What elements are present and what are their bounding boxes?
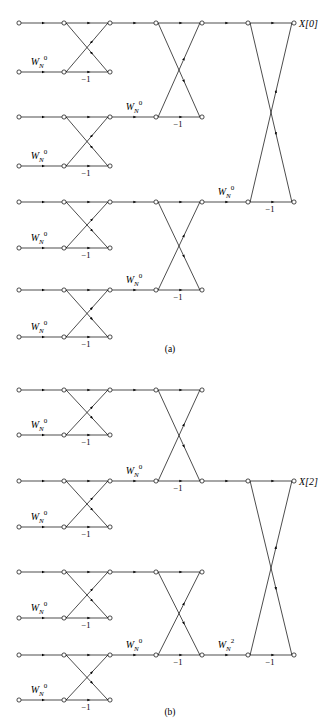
stage2-node	[108, 653, 112, 657]
stage2-node	[108, 164, 112, 168]
stage1-node	[62, 433, 66, 437]
input-node	[17, 525, 21, 529]
gain-minus-one-label: −1	[81, 168, 90, 178]
stage1-node	[62, 616, 66, 620]
input-node	[17, 200, 21, 204]
input-node	[17, 698, 21, 702]
gain-minus-one-label: −1	[81, 702, 90, 712]
gain-minus-one-label: −1	[81, 74, 90, 84]
stage1-node	[62, 388, 66, 392]
stage1-node	[62, 479, 66, 483]
twiddle-factor-label: WN2	[218, 637, 235, 653]
stage2-node	[108, 335, 112, 339]
twiddle-text: WN0	[126, 272, 143, 288]
stage2-node	[108, 698, 112, 702]
stage2-node	[108, 21, 112, 25]
twiddle-factor-label: WN0	[31, 230, 48, 246]
gain-minus-one-label: −1	[81, 620, 90, 630]
stage1-node	[62, 21, 66, 25]
stage2-node	[108, 288, 112, 292]
stage3-node	[154, 388, 158, 392]
twiddle-factor-label: WN0	[31, 509, 48, 525]
twiddle-factor-label: WN0	[126, 637, 143, 653]
stage1-node	[62, 70, 66, 74]
stage3-node	[200, 200, 204, 204]
stage1-node	[62, 115, 66, 119]
stage2-node	[108, 388, 112, 392]
stage2-node	[108, 115, 112, 119]
stage3-node	[200, 388, 204, 392]
stage2-node	[108, 570, 112, 574]
stage1-node	[62, 570, 66, 574]
twiddle-factor-label: WN0	[218, 184, 235, 200]
stage4-node	[246, 479, 250, 483]
gain-minus-one-label: −1	[173, 657, 182, 667]
input-node	[17, 115, 21, 119]
twiddle-text: WN0	[31, 682, 48, 698]
input-node	[17, 616, 21, 620]
panel-b-caption: (b)	[164, 707, 175, 718]
stage3-node	[200, 21, 204, 25]
stage3-node	[200, 479, 204, 483]
stage1-node	[62, 288, 66, 292]
input-node	[17, 388, 21, 392]
gain-minus-one-label: −1	[81, 437, 90, 447]
gain-minus-one-label: −1	[81, 250, 90, 260]
stage3-node	[200, 288, 204, 292]
stage2-node	[108, 616, 112, 620]
gain-minus-one-label: −1	[173, 483, 182, 493]
twiddle-text: WN2	[218, 637, 235, 653]
stage3-node	[200, 653, 204, 657]
stage4-node	[246, 21, 250, 25]
twiddle-factor-label: WN0	[126, 99, 143, 115]
input-node	[17, 653, 21, 657]
stage3-node	[154, 115, 158, 119]
stage3-node	[154, 288, 158, 292]
input-node	[17, 164, 21, 168]
twiddle-text: WN0	[31, 230, 48, 246]
stage1-node	[62, 335, 66, 339]
twiddle-text: WN0	[31, 417, 48, 433]
flow-graph-canvas: WN0−1WN0−1WN0−1WN0−1WN0−1WN0−1WN0−1X[0](…	[0, 0, 333, 722]
input-node	[17, 335, 21, 339]
stage2-node	[108, 433, 112, 437]
twiddle-factor-label: WN0	[126, 272, 143, 288]
input-node	[17, 433, 21, 437]
stage2-node	[108, 70, 112, 74]
input-node	[17, 70, 21, 74]
twiddle-text: WN0	[31, 509, 48, 525]
output-label-x0: X[0]	[298, 18, 318, 29]
gain-minus-one-label: −1	[81, 529, 90, 539]
stage4-node	[246, 200, 250, 204]
stage1-node	[62, 653, 66, 657]
twiddle-text: WN0	[126, 99, 143, 115]
twiddle-factor-label: WN0	[31, 417, 48, 433]
stage4-node	[292, 200, 296, 204]
stage3-node	[200, 115, 204, 119]
stage3-node	[154, 479, 158, 483]
stage3-node	[154, 653, 158, 657]
twiddle-factor-label: WN0	[126, 463, 143, 479]
stage4-node	[292, 653, 296, 657]
twiddle-factor-label: WN0	[31, 682, 48, 698]
stage1-node	[62, 200, 66, 204]
stage3-node	[200, 570, 204, 574]
stage2-node	[108, 246, 112, 250]
twiddle-text: WN0	[218, 184, 235, 200]
stage1-node	[62, 698, 66, 702]
gain-minus-one-label: −1	[265, 657, 274, 667]
fft-flow-graph-figure: WN0−1WN0−1WN0−1WN0−1WN0−1WN0−1WN0−1X[0](…	[0, 0, 333, 722]
stage2-node	[108, 200, 112, 204]
stage3-node	[154, 21, 158, 25]
twiddle-factor-label: WN0	[31, 148, 48, 164]
twiddle-text: WN0	[126, 637, 143, 653]
stage1-node	[62, 164, 66, 168]
stage2-node	[108, 479, 112, 483]
twiddle-factor-label: WN0	[31, 54, 48, 70]
input-node	[17, 288, 21, 292]
twiddle-text: WN0	[31, 148, 48, 164]
stage1-node	[62, 525, 66, 529]
twiddle-text: WN0	[31, 600, 48, 616]
gain-minus-one-label: −1	[265, 204, 274, 214]
stage3-node	[154, 200, 158, 204]
